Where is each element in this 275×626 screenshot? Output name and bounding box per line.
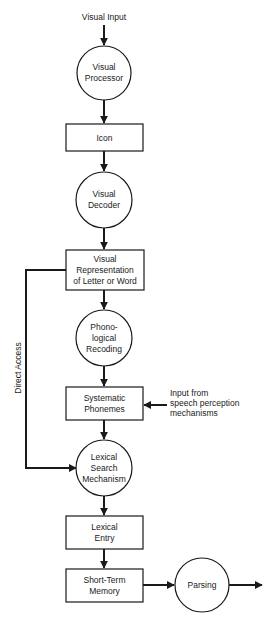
node-visual-representation: Visual Representation of Letter or Word — [66, 250, 144, 290]
svg-text:Parsing: Parsing — [188, 580, 217, 590]
svg-text:Visual: Visual — [94, 254, 117, 264]
svg-text:Memory: Memory — [89, 586, 120, 596]
svg-text:Phono-: Phono- — [90, 322, 118, 332]
svg-text:Mechanism: Mechanism — [82, 474, 125, 484]
node-icon: Icon — [66, 124, 143, 151]
svg-text:Short-Term: Short-Term — [83, 575, 125, 585]
svg-text:of Letter or Word: of Letter or Word — [73, 276, 137, 286]
direct-access-label: Direct Access — [13, 342, 23, 394]
node-lexical-search-mechanism: Lexical Search Mechanism — [76, 440, 132, 496]
direct-access-path — [26, 270, 76, 468]
svg-text:Representation: Representation — [76, 265, 134, 275]
svg-text:Search: Search — [91, 463, 118, 473]
svg-text:Visual: Visual — [93, 189, 116, 199]
svg-text:Processor: Processor — [85, 73, 123, 83]
node-short-term-memory: Short-Term Memory — [66, 569, 143, 602]
svg-text:Icon: Icon — [96, 133, 112, 143]
node-parsing: Parsing — [175, 558, 229, 612]
speech-perception-input-label: Input from speech perception mechanisms — [170, 388, 240, 418]
svg-text:Lexical: Lexical — [91, 452, 118, 462]
visual-input-label: Visual Input — [82, 12, 127, 22]
svg-text:logical: logical — [92, 333, 116, 343]
svg-text:Phonemes: Phonemes — [84, 404, 125, 414]
node-lexical-entry: Lexical Entry — [66, 516, 143, 549]
svg-text:Entry: Entry — [95, 533, 116, 543]
node-visual-decoder: Visual Decoder — [76, 172, 132, 228]
node-systematic-phonemes: Systematic Phonemes — [66, 387, 143, 420]
svg-text:Decoder: Decoder — [88, 200, 120, 210]
svg-text:Systematic: Systematic — [84, 393, 126, 403]
svg-text:Visual: Visual — [93, 62, 116, 72]
svg-text:Lexical: Lexical — [91, 522, 118, 532]
reading-model-flowchart: Visual Input Visual Processor Icon Visua… — [0, 0, 275, 626]
svg-text:Recoding: Recoding — [86, 344, 122, 354]
node-phonological-recoding: Phono- logical Recoding — [76, 310, 132, 366]
node-visual-processor: Visual Processor — [77, 46, 131, 100]
svg-text:Input from: Input from — [170, 388, 208, 398]
svg-text:speech perception: speech perception — [170, 398, 240, 408]
svg-text:mechanisms: mechanisms — [170, 408, 218, 418]
